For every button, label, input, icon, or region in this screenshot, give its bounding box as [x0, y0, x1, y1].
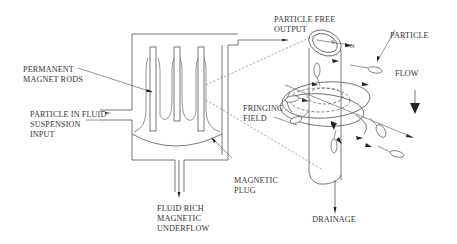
label-output-1: PARTICLE FREE — [274, 15, 335, 24]
magnetic-separator-diagram: PERMANENT MAGNET RODS PARTICLE IN FLUID … — [0, 0, 457, 244]
label-drainage: DRAINAGE — [312, 215, 356, 224]
label-input-1: PARTICLE IN FLUID — [30, 110, 106, 119]
label-flow: FLOW — [395, 69, 419, 78]
label-magnetic-plug-1: MAGNETIC — [234, 176, 278, 185]
flow-arrow-icon — [410, 103, 420, 114]
drainage-arrow-icon — [334, 207, 337, 214]
label-pole-south: S — [331, 38, 335, 45]
labels: PERMANENT MAGNET RODS PARTICLE IN FLUID … — [23, 15, 429, 233]
label-underflow-3: UNDERFLOW — [157, 224, 209, 233]
particles — [285, 63, 405, 159]
label-particle: PARTICLE — [390, 31, 429, 40]
label-input-3: INPUT — [30, 130, 55, 139]
label-input-2: SUSPENSION — [30, 120, 81, 129]
output-arrow-icon — [282, 39, 288, 41]
label-magnet-rods-1: PERMANENT — [23, 65, 74, 74]
label-underflow-1: FLUID RICH — [157, 204, 204, 213]
underflow-arrow-icon — [178, 192, 181, 198]
label-underflow-2: MAGNETIC — [157, 214, 201, 223]
label-fringing-field-2: FIELD — [243, 114, 267, 123]
label-pole-north: N — [350, 42, 355, 49]
label-magnet-rods-2: MAGNET RODS — [23, 75, 83, 84]
label-fringing-field-1: FRINGING — [243, 104, 283, 113]
label-output-2: OUTPUT — [274, 25, 307, 34]
label-magnetic-plug-2: PLUG — [234, 186, 256, 195]
